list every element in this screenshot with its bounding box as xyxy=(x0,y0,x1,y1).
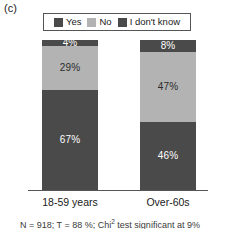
chart-footnote: N = 918; T = 88 %; Chi2 test significant… xyxy=(20,218,237,229)
bar-segment: 47% xyxy=(140,52,196,122)
stacked-bar-18-59-years: 4%29%67% xyxy=(42,40,98,190)
x-axis-tick-label-1: Over-60s xyxy=(118,196,218,208)
stacked-bar-over-60s: 8%47%46% xyxy=(140,40,196,190)
bar-segment: 29% xyxy=(42,46,98,90)
chart-plot-area: 4%29%67% 8%47%46% 18-59 years Over-60s xyxy=(0,0,237,229)
bar-segment: 46% xyxy=(140,122,196,190)
bar-segment: 8% xyxy=(140,40,196,52)
bar-segment-label: 29% xyxy=(60,63,80,73)
bar-segment-label: 46% xyxy=(158,151,178,161)
x-axis-tick-label-0: 18-59 years xyxy=(20,196,120,208)
x-axis-line xyxy=(28,190,208,191)
bar-segment: 67% xyxy=(42,90,98,191)
chi-squared-superscript: 2 xyxy=(111,218,115,225)
bar-segment-label: 47% xyxy=(158,82,178,92)
bar-segment-label: 67% xyxy=(60,135,80,145)
bar-segment-label: 8% xyxy=(161,41,176,51)
